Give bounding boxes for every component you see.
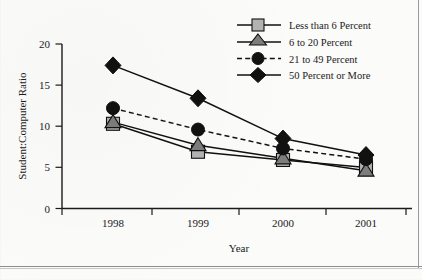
legend-item-6-to-20-percent[interactable]: 6 to 20 Percent — [237, 34, 352, 48]
legend: Less than 6 Percent 6 to 20 Percent 21 t… — [237, 19, 371, 83]
series-markers-6-to-20-percent — [105, 115, 374, 177]
x-tick-label-2000: 2000 — [272, 217, 295, 229]
x-tick-label-1998: 1998 — [102, 217, 125, 229]
chart-page: 20 15 10 5 0 1998 1999 2000 2001 Student… — [0, 0, 422, 280]
data-point-marker-circle — [107, 102, 120, 115]
series-line-less-than-6-percent — [113, 124, 366, 168]
x-tick-label-2001: 2001 — [355, 217, 377, 229]
legend-label-6-to-20-percent: 6 to 20 Percent — [289, 37, 352, 48]
x-axis-title: Year — [229, 242, 250, 254]
legend-item-50-percent-or-more[interactable]: 50 Percent or More — [237, 68, 371, 83]
legend-label-21-to-49-percent: 21 to 49 Percent — [289, 54, 358, 65]
legend-label-less-than-6-percent: Less than 6 Percent — [289, 20, 371, 31]
legend-diamond-icon — [250, 68, 266, 83]
y-tick-label-10: 10 — [39, 120, 51, 132]
x-tick-group: 1998 1999 2000 2001 — [62, 209, 406, 230]
data-point-marker-diamond — [190, 90, 206, 107]
data-point-marker-diamond — [105, 57, 121, 74]
y-tick-label-0: 0 — [45, 203, 51, 215]
y-axis-title: Student:Computer Ratio — [16, 72, 28, 180]
legend-item-21-to-49-percent[interactable]: 21 to 49 Percent — [237, 53, 358, 65]
legend-item-less-than-6-percent[interactable]: Less than 6 Percent — [237, 19, 371, 31]
series-lines — [113, 65, 366, 170]
data-point-marker-circle — [192, 123, 205, 136]
y-tick-label-15: 15 — [39, 79, 51, 91]
y-tick-label-5: 5 — [45, 161, 51, 173]
legend-square-icon — [252, 19, 264, 31]
legend-triangle-icon — [250, 34, 267, 45]
y-tick-label-20: 20 — [39, 38, 51, 50]
legend-label-50-percent-or-more: 50 Percent or More — [289, 70, 371, 81]
line-chart: 20 15 10 5 0 1998 1999 2000 2001 Student… — [0, 0, 422, 280]
x-tick-label-1999: 1999 — [187, 217, 210, 229]
y-tick-group: 20 15 10 5 0 — [39, 38, 62, 215]
legend-circle-icon — [252, 53, 264, 65]
